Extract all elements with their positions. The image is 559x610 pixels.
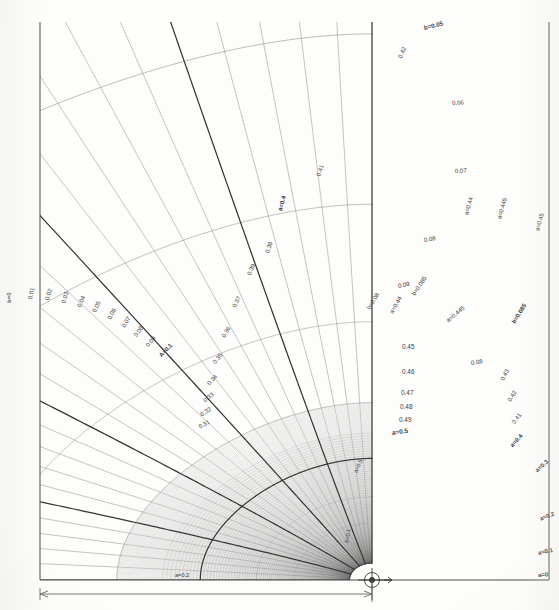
- flow-net-chart: FIG. A-1 FLOW NET COORDINATES: [0, 0, 559, 610]
- flow-net-svg: [0, 0, 559, 610]
